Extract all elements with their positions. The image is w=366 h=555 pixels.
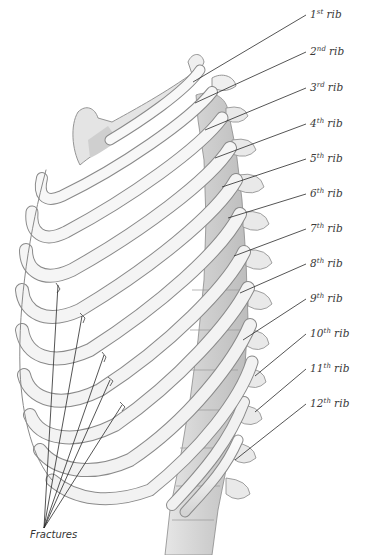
rib-label-12: 12thrib (310, 397, 350, 409)
fractures-label: Fractures (30, 529, 77, 540)
rib-label-11: 11thrib (310, 362, 350, 374)
rib-1 (110, 70, 200, 140)
leader-line-rib-8 (240, 264, 306, 293)
rib-label-10: 10thrib (310, 327, 350, 339)
rib-label-7: 7thrib (310, 222, 343, 234)
rib-label-3: 3rdrib (310, 81, 343, 93)
rib-label-1: 1strib (310, 8, 342, 20)
leader-line-rib-1 (193, 15, 306, 82)
rib-label-5: 5thrib (310, 152, 343, 164)
rib-label-6: 6thrib (310, 187, 343, 199)
rib-label-8: 8thrib (310, 257, 343, 269)
rib-label-2: 2ndrib (310, 45, 344, 57)
rib-label-9: 9thrib (310, 292, 343, 304)
rib-label-4: 4thrib (310, 117, 343, 129)
rib-cage-diagram: 1strib2ndrib3rdrib4thrib5thrib6thrib7thr… (0, 0, 366, 555)
